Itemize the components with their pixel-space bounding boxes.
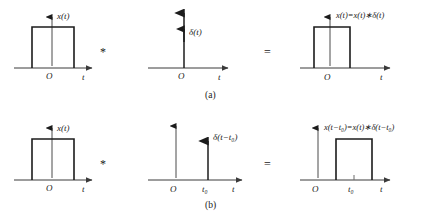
b-input-pulse-waveform [32,139,74,180]
b-output-pulse-waveform [336,139,372,180]
b-impulse-signal-label: δ(t−t₀) [213,132,237,142]
panel-a-input [14,17,92,68]
b-output-signal-label: x(t−t₀)=x(t)∗δ(t−t₀) [323,122,395,132]
b-input-signal-label: x(t) [56,123,70,133]
a-output-origin-label: O [324,72,331,82]
panel-b-output [300,128,390,180]
caption-b: (b) [205,200,216,211]
row-a-equals-operator: = [264,45,271,59]
a-input-origin-label: O [46,71,53,81]
b-output-origin-label: O [312,184,319,194]
a-output-pulse-waveform [314,27,350,68]
a-input-time-label: t [82,72,85,82]
figure-container: x(t) O t * δ(t) O t = x(t)=x(t)∗δ(t) O t… [0,0,423,213]
a-input-signal-label: x(t) [56,11,70,21]
a-impulse-origin-label: O [178,71,185,81]
panel-b-input [14,128,92,180]
panel-a-impulse [148,13,228,68]
b-impulse-origin-label: O [170,184,177,194]
a-impulse-time-label: t [218,72,221,82]
b-impulse-shift-label: t₀ [202,184,208,194]
b-input-origin-label: O [46,183,53,193]
b-impulse-time-label: t [232,184,235,194]
b-output-shift-label: t₀ [348,184,354,194]
caption-a: (a) [205,90,216,101]
a-input-pulse-waveform [32,27,74,68]
a-impulse-signal-label: δ(t) [189,27,202,37]
row-b-equals-operator: = [264,157,271,171]
panel-a-output [300,17,390,68]
a-output-signal-label: x(t)=x(t)∗δ(t) [335,10,384,20]
b-input-time-label: t [82,184,85,194]
row-b-convolution-operator: * [100,157,106,171]
b-output-time-label: t [380,184,383,194]
a-output-time-label: t [380,72,383,82]
row-a-convolution-operator: * [100,45,106,59]
convolution-figure: x(t) O t * δ(t) O t = x(t)=x(t)∗δ(t) O t… [0,0,423,213]
